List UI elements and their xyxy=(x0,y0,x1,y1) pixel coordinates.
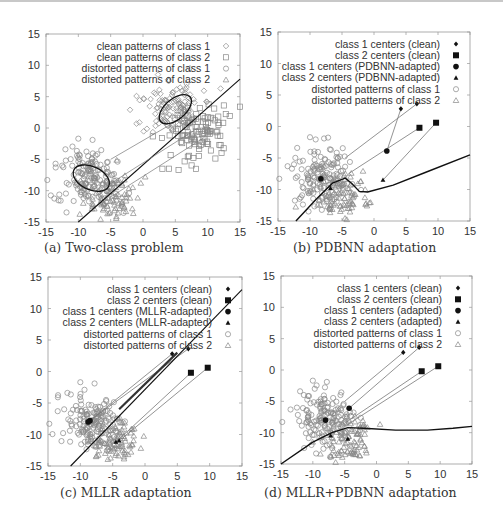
legend-marker xyxy=(455,342,461,347)
legend-label: distorted patterns of class 2 xyxy=(314,338,443,350)
clean-class2-center xyxy=(419,368,425,374)
x-tick-label: 15 xyxy=(466,468,478,480)
legend-marker xyxy=(455,296,461,302)
legend-marker xyxy=(455,308,461,314)
x-tick-label: -15 xyxy=(273,468,289,480)
legend-label: class 1 centers (adapted) xyxy=(324,304,442,316)
x-tick-label: 10 xyxy=(434,468,446,480)
x-tick-label: 0 xyxy=(373,468,379,480)
distorted-class2-point xyxy=(377,422,383,427)
x-tick-label: 5 xyxy=(405,468,411,480)
scatter-plot-d: -15-10-5051015-15-10-5051015class 1 cent… xyxy=(0,0,503,526)
legend-marker xyxy=(456,285,460,290)
adapted-class1-center xyxy=(323,417,329,423)
legend-label: class 2 centers (clean) xyxy=(337,293,442,305)
adaptation-path xyxy=(349,347,419,408)
decision-boundary-curve xyxy=(281,426,472,464)
y-tick-label: 5 xyxy=(269,333,275,345)
distorted-class1-point xyxy=(321,446,326,451)
legend-label: class 2 centers (adapted) xyxy=(324,315,442,327)
distorted-class1-point xyxy=(310,378,315,383)
distorted-class1-point xyxy=(313,428,318,433)
legend-label: class 1 centers (clean) xyxy=(337,282,442,294)
adapted-class1-center xyxy=(346,405,352,411)
x-tick-label: -5 xyxy=(340,468,350,480)
y-tick-label: 15 xyxy=(263,270,275,282)
x-tick-label: -10 xyxy=(305,468,321,480)
distorted-class1-point xyxy=(294,405,299,410)
distorted-class1-point xyxy=(295,412,300,417)
distorted-class1-point xyxy=(308,401,313,406)
y-tick-label: -5 xyxy=(265,395,275,407)
y-tick-label: -15 xyxy=(259,458,275,470)
legend-label: distorted patterns of class 1 xyxy=(314,327,443,339)
distorted-class1-point xyxy=(288,407,293,412)
distorted-class1-point xyxy=(331,395,336,400)
distorted-class1-point xyxy=(322,385,327,390)
legend-marker xyxy=(455,331,460,336)
legend-marker xyxy=(456,319,461,323)
adaptation-path xyxy=(345,366,439,426)
clean-class1-center xyxy=(401,350,405,355)
distorted-class1-point xyxy=(298,389,303,394)
distorted-class1-point xyxy=(330,401,335,406)
distorted-class1-point xyxy=(280,419,285,424)
distorted-class1-point xyxy=(320,439,325,444)
y-tick-label: 10 xyxy=(263,301,275,313)
chart-panel-d: -15-10-5051015-15-10-5051015class 1 cent… xyxy=(0,0,503,526)
distorted-class1-point xyxy=(324,379,329,384)
y-tick-label: 0 xyxy=(269,364,275,376)
caption-d: (d) MLLR+PDBNN adaptation xyxy=(264,485,456,500)
distorted-class2-point xyxy=(362,432,368,437)
clean-class2-center xyxy=(435,363,441,369)
distorted-class1-point xyxy=(297,418,302,423)
y-tick-label: -10 xyxy=(259,427,275,439)
